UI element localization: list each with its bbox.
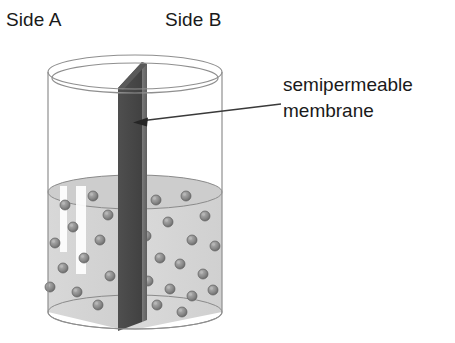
solute-particle bbox=[165, 284, 175, 294]
solute-particle bbox=[200, 211, 210, 221]
solute-particle bbox=[68, 222, 78, 232]
semipermeable-membrane bbox=[118, 62, 147, 331]
solute-particle bbox=[181, 191, 191, 201]
solute-particle bbox=[58, 263, 68, 273]
solute-particle bbox=[50, 238, 60, 248]
solute-particle bbox=[93, 300, 103, 310]
solute-particle bbox=[72, 287, 82, 297]
solute-particle bbox=[105, 271, 115, 281]
solute-particle bbox=[187, 291, 197, 301]
solute-particle bbox=[175, 259, 185, 269]
annotation-line-2: membrane bbox=[283, 98, 448, 124]
highlight-streak-1 bbox=[60, 186, 67, 252]
solute-particle bbox=[79, 253, 89, 263]
solute-particle bbox=[163, 217, 173, 227]
solute-particle bbox=[95, 235, 105, 245]
solute-particle bbox=[155, 253, 165, 263]
osmosis-diagram: Side A Side B semipermeable membrane bbox=[0, 0, 455, 343]
solute-particle bbox=[187, 235, 197, 245]
label-side-a: Side A bbox=[6, 9, 62, 31]
membrane-edge-face bbox=[142, 62, 147, 322]
solute-particle bbox=[177, 307, 187, 317]
solute-particle bbox=[88, 191, 98, 201]
annotation-line-1: semipermeable bbox=[283, 72, 448, 98]
solute-particle bbox=[198, 269, 208, 279]
solute-particle bbox=[151, 195, 161, 205]
solute-particle bbox=[152, 300, 162, 310]
annotation-semipermeable-membrane: semipermeable membrane bbox=[283, 72, 448, 124]
membrane-dark-face bbox=[118, 62, 142, 331]
solute-particle bbox=[103, 210, 113, 220]
solute-particle bbox=[208, 285, 218, 295]
label-side-b: Side B bbox=[165, 9, 222, 31]
solute-particle bbox=[210, 241, 220, 251]
solute-particle bbox=[45, 282, 55, 292]
solute-particle bbox=[60, 200, 70, 210]
cylinder-membrane-figure bbox=[0, 0, 455, 343]
